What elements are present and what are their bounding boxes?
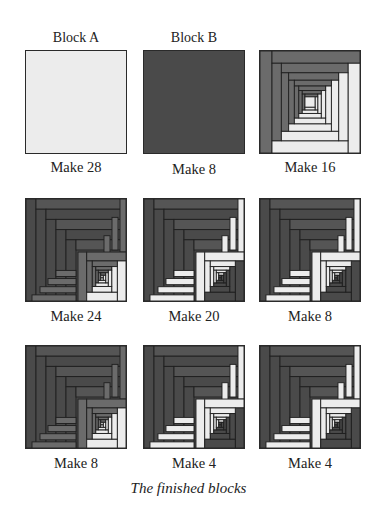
make-count: Make 8 (143, 161, 245, 177)
make-count: Make 28 (25, 159, 127, 175)
logcabin-block (25, 345, 127, 449)
make-count: Make 4 (143, 455, 245, 471)
logcabin-block (259, 50, 361, 154)
logcabin-block (259, 345, 361, 449)
figure-caption: The finished blocks (0, 480, 377, 497)
make-count: Make 20 (143, 308, 245, 324)
logcabin-block (143, 345, 245, 449)
make-count: Make 4 (259, 455, 361, 471)
block-title: Block B (143, 30, 245, 46)
logcabin-block (259, 198, 361, 302)
block-title: Block A (25, 30, 127, 46)
logcabin-block (143, 198, 245, 302)
make-count: Make 8 (25, 455, 127, 471)
block-b-swatch (143, 50, 245, 154)
logcabin-block (25, 198, 127, 302)
block-a-swatch (25, 50, 127, 154)
make-count: Make 8 (259, 308, 361, 324)
make-count: Make 24 (25, 308, 127, 324)
make-count: Make 16 (259, 159, 361, 175)
